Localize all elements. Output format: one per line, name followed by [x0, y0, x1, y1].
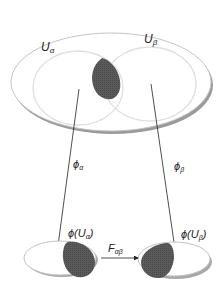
label-image-alpha: ϕ(Uα)	[68, 227, 94, 240]
chart-image-alpha	[24, 241, 98, 277]
label-u-beta: Uβ	[144, 32, 158, 47]
label-image-beta: ϕ(Uβ)	[181, 228, 207, 242]
chart-image-beta	[138, 242, 212, 279]
label-phi-alpha: ϕα	[73, 158, 84, 171]
label-transition: Fαβ	[108, 242, 123, 256]
label-phi-beta: ϕβ	[174, 160, 184, 174]
manifold-chart-diagram: Uα Uβ ϕα ϕβ Fαβ ϕ(Uα) ϕ(Uβ)	[0, 0, 224, 294]
